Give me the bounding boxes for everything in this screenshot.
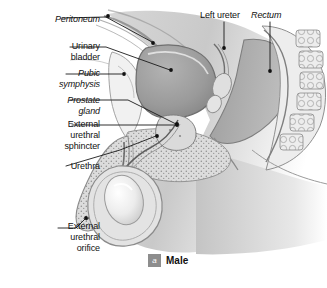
caption-text: Male [166, 255, 188, 266]
label-rectum: Rectum [251, 10, 301, 21]
label-urinary-bladder: Urinary bladder [8, 41, 100, 63]
label-external-urethral-sphincter: External urethral sphincter [4, 119, 100, 153]
label-peritoneum: Peritoneum [8, 14, 100, 25]
leader-rectum-endpoint [268, 69, 272, 73]
leader-left-ureter-endpoint [222, 46, 226, 50]
leader-peritoneum-endpoint [106, 14, 110, 18]
anatomy-figure-male-pelvis: PeritoneumUrinary bladderPubic symphysis… [0, 0, 327, 288]
figure-caption: a Male [148, 254, 188, 267]
leader-peritoneum-branch-endpoint [151, 41, 155, 45]
caption-marker-badge: a [148, 254, 161, 267]
leader-external-urethral-orifice-endpoint [84, 216, 88, 220]
leader-pubic-symphysis-endpoint [122, 72, 126, 76]
leader-urinary-bladder-endpoint [169, 68, 173, 72]
label-external-urethral-orifice: External urethral orifice [4, 221, 100, 255]
prostate-gland [156, 115, 196, 150]
label-prostate-gland: Prostate gland [8, 95, 100, 117]
label-pubic-symphysis: Pubic symphysis [8, 68, 100, 90]
label-urethra: Urethra [8, 161, 100, 172]
leader-external-urethral-sphincter-endpoint [175, 123, 179, 127]
leader-urethra-endpoint [155, 134, 159, 138]
